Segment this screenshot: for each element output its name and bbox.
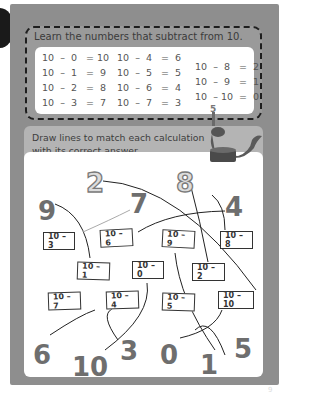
answer-2: 2: [86, 168, 104, 198]
page-number: 9: [268, 386, 272, 394]
answer-6: 6: [33, 340, 51, 370]
calc-card-10-5[interactable]: 10 – 5: [162, 292, 196, 311]
answer-0: 0: [160, 340, 178, 370]
fact: 10 – 9 = 1: [195, 74, 259, 89]
calc-card-10-10[interactable]: 10 – 10: [218, 291, 254, 309]
facts-column-2: 10 – 4 = 6 10 – 5 = 5 10 – 6 = 4 10 – 7 …: [117, 50, 181, 110]
calc-card-10-7[interactable]: 10 – 7: [48, 291, 82, 310]
answer-9: 9: [38, 196, 56, 226]
calc-card-10-6[interactable]: 10 – 6: [100, 228, 134, 248]
fact: 10 – 1 = 9: [42, 65, 109, 80]
calc-card-10-8[interactable]: 10 – 8: [220, 231, 253, 249]
facts-column-1: 10 – 0 = 10 10 – 1 = 9 10 – 2 = 8 10 – 3…: [42, 50, 109, 110]
calc-card-10-4[interactable]: 10 – 4: [106, 290, 140, 309]
calc-card-10-9[interactable]: 10 – 9: [162, 229, 196, 249]
fact: 10 – 2 = 8: [42, 80, 109, 95]
fact: 10 – 6 = 4: [117, 80, 181, 95]
answer-7: 7: [130, 189, 148, 219]
answer-4: 4: [225, 192, 243, 222]
fact: 10 – 5 = 5: [117, 65, 181, 80]
seal-illustration-icon: 5: [204, 96, 274, 166]
answer-1: 1: [200, 350, 218, 380]
calc-card-10-0[interactable]: 10 – 0: [132, 261, 164, 279]
answer-5: 5: [234, 334, 252, 364]
fact: 10 – 7 = 3: [117, 95, 181, 110]
calc-card-10-3[interactable]: 10 – 3: [43, 232, 75, 250]
answer-8: 8: [176, 168, 194, 198]
learn-title: Learn the numbers that subtract from 10.: [34, 31, 243, 42]
answer-3: 3: [120, 336, 138, 366]
fact: 10 – 3 = 7: [42, 95, 109, 110]
instruction-line-1: Draw lines to match each calculation: [32, 131, 204, 144]
fact: 10 – 4 = 6: [117, 50, 181, 65]
fact: 10 – 8 = 2: [195, 59, 259, 74]
calc-card-10-1[interactable]: 10 – 1: [77, 261, 111, 280]
calc-card-10-2[interactable]: 10 – 2: [192, 263, 225, 281]
fact: 10 – 0 = 10: [42, 50, 109, 65]
answer-10: 10: [72, 352, 108, 382]
